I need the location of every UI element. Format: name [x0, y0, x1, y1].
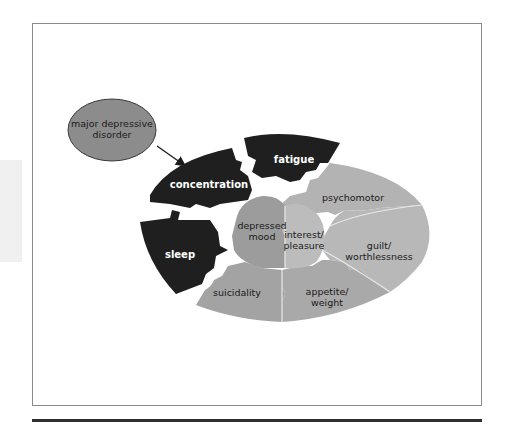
mdd-label-line2: disorder	[93, 129, 132, 140]
puzzle-piece-concentration	[150, 148, 252, 208]
depression-puzzle-diagram: major depressive disorder concentration …	[0, 0, 510, 428]
mdd-label-line1: major depressive	[71, 118, 153, 129]
label-sleep: sleep	[165, 249, 195, 260]
label-appetite-line1: appetite/	[306, 286, 350, 297]
label-suicidality: suicidality	[213, 287, 261, 298]
label-appetite-line2: weight	[311, 297, 343, 308]
label-interest-line1: interest/	[284, 229, 324, 240]
label-depressed-line2: mood	[249, 231, 276, 242]
label-fatigue: fatigue	[274, 154, 315, 165]
arrow-icon	[157, 146, 184, 165]
label-psychomotor: psychomotor	[322, 192, 384, 203]
label-guilt-line1: guilt/	[367, 240, 392, 251]
label-interest-line2: pleasure	[284, 240, 325, 251]
label-guilt-line2: worthlessness	[345, 251, 412, 262]
mdd-node: major depressive disorder	[68, 99, 156, 161]
label-concentration: concentration	[170, 179, 248, 190]
label-depressed-line1: depressed	[237, 220, 286, 231]
